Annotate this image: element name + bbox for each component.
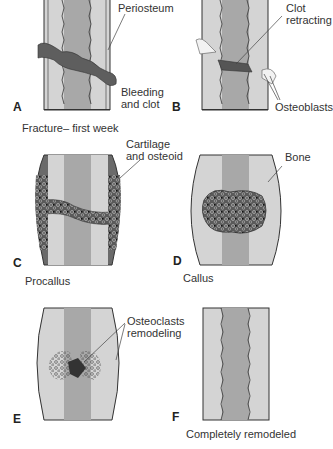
label-bone: Bone [285, 151, 311, 164]
panel-f-bone [203, 308, 269, 420]
label-and-clot: and clot [121, 98, 160, 111]
panel-letter-c: C [13, 256, 22, 270]
panel-b-bone [196, 0, 282, 111]
panel-letter-e: E [13, 412, 21, 426]
label-periosteum: Periosteum [118, 2, 174, 15]
caption-f: Completely remodeled [186, 428, 296, 440]
panel-letter-d: D [173, 254, 182, 268]
panel-e-bone [37, 308, 125, 420]
label-osteoblasts: Osteoblasts [275, 101, 333, 114]
label-retracting: retracting [286, 14, 332, 27]
caption-a: Fracture– first week [22, 122, 119, 134]
panel-letter-a: A [13, 100, 22, 114]
panel-a-bone [38, 0, 125, 111]
panel-c-bone [35, 155, 140, 265]
panel-d-bone [191, 155, 282, 265]
caption-d: Callus [183, 272, 214, 284]
panel-letter-b: B [172, 100, 181, 114]
label-and-osteoid: and osteoid [126, 150, 183, 163]
label-remodeling: remodeling [127, 327, 181, 340]
caption-c: Procallus [25, 275, 70, 287]
fracture-healing-diagram [0, 0, 333, 449]
panel-letter-f: F [172, 410, 179, 424]
